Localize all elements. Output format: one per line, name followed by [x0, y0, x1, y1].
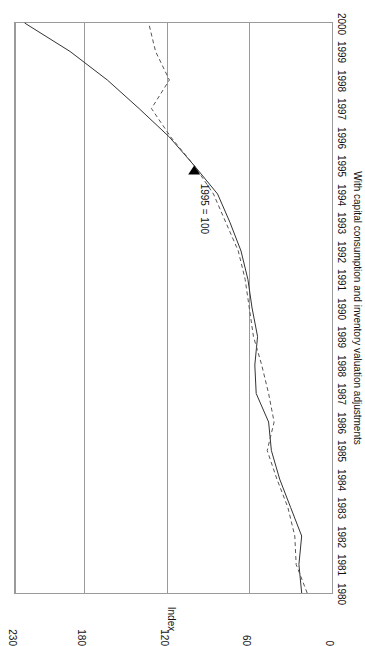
- x-tick-label: 2000: [336, 4, 347, 44]
- y-axis-title: Index: [166, 602, 177, 636]
- annotation-label: 1995 = 100: [199, 184, 210, 234]
- y-tick-label: 180: [76, 602, 87, 646]
- series-lines: [15, 23, 332, 593]
- chart-figure: 060120180230 Index 198019811982198319841…: [0, 0, 365, 646]
- gridline: [332, 23, 333, 593]
- chart-subtitle: With capital consumption and inventory v…: [352, 22, 363, 594]
- y-tick-label: 230: [7, 602, 18, 646]
- chart-rotation-wrapper: 060120180230 Index 198019811982198319841…: [0, 0, 365, 646]
- y-tick-label: 60: [241, 602, 252, 646]
- series-dashed: [149, 23, 308, 593]
- series-solid: [25, 23, 302, 593]
- y-tick-label: 0: [324, 602, 335, 646]
- y-axis-ticks: 060120180230: [0, 600, 365, 646]
- plot-area: [14, 22, 333, 594]
